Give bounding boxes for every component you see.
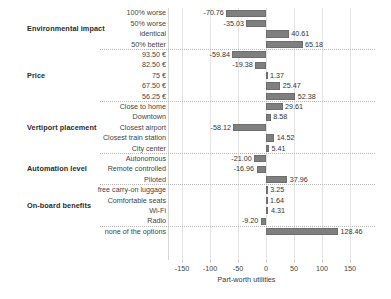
bar-row: 65.18	[168, 39, 364, 49]
bar-row: 37.96	[168, 174, 364, 184]
x-tick	[350, 260, 351, 263]
bar-value-label: 5.41	[272, 144, 286, 154]
category-label: Closest airport	[120, 123, 166, 133]
bar	[266, 176, 287, 183]
x-tick-label: -150	[175, 264, 189, 273]
bar	[233, 124, 266, 131]
x-tick-label: -50	[233, 264, 243, 273]
x-tick	[266, 260, 267, 263]
bar	[226, 10, 266, 17]
bar	[266, 72, 268, 79]
bar-row: 29.61	[168, 102, 364, 112]
x-tick-label: 0	[264, 264, 268, 273]
group-label: On-board benefits	[27, 201, 91, 210]
bar	[266, 134, 274, 141]
x-axis-title: Part-worth utilities	[0, 275, 391, 284]
group-label: Automation level	[27, 164, 87, 173]
bar-row: 4.31	[168, 206, 364, 216]
category-label: 100% worse	[126, 8, 166, 18]
bar	[254, 155, 266, 162]
group-separator	[100, 153, 375, 154]
bar-row: 5.41	[168, 143, 364, 153]
bar-value-label: -58.12	[211, 123, 231, 133]
category-label: 67.50 €	[142, 81, 166, 91]
bar-row: -58.12	[168, 122, 364, 132]
category-label: identical	[140, 29, 166, 39]
bar-value-label: 65.18	[305, 40, 323, 50]
bar	[266, 207, 268, 214]
bar	[246, 20, 266, 27]
bar-value-label: -35.03	[224, 19, 244, 29]
x-tick-label: -100	[203, 264, 217, 273]
bar-row: -70.76	[168, 8, 364, 18]
bar	[257, 166, 266, 173]
plot-area: -70.76-35.0340.6165.18-59.84-19.381.3725…	[168, 8, 364, 260]
bar-row: 52.38	[168, 91, 364, 101]
category-label: Piloted	[144, 175, 166, 185]
bar	[255, 62, 266, 69]
bar-value-label: 128.46	[340, 227, 362, 237]
bar	[266, 103, 283, 110]
category-label: Autonomous	[126, 154, 166, 164]
bar	[266, 228, 338, 235]
bar-value-label: 29.61	[285, 102, 303, 112]
bar	[266, 41, 303, 48]
bar-value-label: 3.25	[270, 185, 284, 195]
bar-value-label: -59.84	[210, 50, 230, 60]
bar-value-label: 8.58	[273, 112, 287, 122]
category-label: Wi-Fi	[149, 206, 166, 216]
bar-value-label: 25.47	[283, 81, 301, 91]
x-tick	[294, 260, 295, 263]
bar-value-label: -70.76	[203, 8, 223, 18]
bar	[266, 145, 269, 152]
group-separator	[100, 226, 375, 227]
x-tick	[322, 260, 323, 263]
bar-row: 8.58	[168, 112, 364, 122]
category-label: Close to home	[120, 102, 166, 112]
bar-value-label: 4.31	[271, 206, 285, 216]
bar-row: -59.84	[168, 50, 364, 60]
bar-value-label: -19.38	[232, 60, 252, 70]
category-label: Radio	[147, 216, 166, 226]
bar-value-label: -9.20	[242, 216, 258, 226]
bar-row: -9.20	[168, 216, 364, 226]
category-label: Closest train station	[103, 133, 166, 143]
bar-row: -21.00	[168, 154, 364, 164]
bar-value-label: 37.96	[290, 175, 308, 185]
bar-row: 1.64	[168, 195, 364, 205]
x-tick	[182, 260, 183, 263]
category-label: 82.50 €	[142, 60, 166, 70]
bar-row: 40.61	[168, 29, 364, 39]
group-label: Environmental impact	[27, 24, 105, 33]
bar	[266, 82, 280, 89]
bar-row: -19.38	[168, 60, 364, 70]
bar-row: 1.37	[168, 70, 364, 80]
bar	[266, 30, 289, 37]
bar-row: 14.52	[168, 133, 364, 143]
x-tick-label: 150	[344, 264, 356, 273]
category-label: 50% worse	[130, 19, 166, 29]
x-tick-label: 100	[316, 264, 328, 273]
category-label: Remote controlled	[108, 164, 166, 174]
group-separator	[100, 49, 375, 50]
category-label: Comfortable seats	[108, 196, 166, 206]
part-worth-utilities-chart: Environmental impactPriceVertiport place…	[0, 0, 391, 299]
bar-row: 128.46	[168, 226, 364, 236]
category-label: none of the options	[105, 227, 166, 237]
group-label: Price	[27, 71, 45, 80]
x-tick	[210, 260, 211, 263]
bar-row: -35.03	[168, 18, 364, 28]
bar-value-label: -21.00	[231, 154, 251, 164]
bar	[266, 114, 271, 121]
category-label: 56.25 €	[142, 92, 166, 102]
category-label: Downtown	[132, 112, 166, 122]
bar-value-label: 40.61	[291, 29, 309, 39]
bar-value-label: 1.37	[270, 71, 284, 81]
group-label: Vertiport placement	[27, 123, 97, 132]
group-separator	[100, 184, 375, 185]
group-separator	[100, 101, 375, 102]
bar	[266, 93, 295, 100]
category-label: 50% better	[131, 40, 166, 50]
bar	[261, 218, 266, 225]
bar-value-label: 14.52	[277, 133, 295, 143]
